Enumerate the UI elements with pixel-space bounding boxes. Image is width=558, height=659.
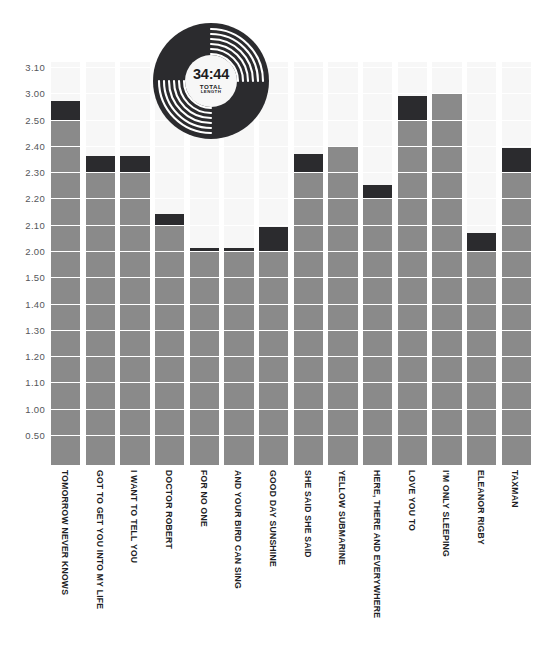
x-axis-tick-label: AND YOUR BIRD CAN SING: [233, 470, 243, 589]
bar-column[interactable]: [502, 62, 531, 465]
y-axis-tick-label: 1.40: [25, 298, 45, 309]
y-axis-tick-label: 1.30: [25, 324, 45, 335]
bar-column[interactable]: [398, 62, 427, 465]
gridline: [51, 198, 531, 199]
bar-seconds-cap: [86, 156, 115, 172]
bar-seconds-cap: [294, 154, 323, 172]
x-axis-labels: TOMORROW NEVER KNOWSGOT TO GET YOU INTO …: [51, 470, 531, 655]
x-axis-tick-label: FOR NO ONE: [199, 470, 209, 527]
y-axis-tick-label: 1.10: [25, 377, 45, 388]
y-axis-tick-label: 2.40: [25, 140, 45, 151]
bar[interactable]: [467, 233, 496, 465]
y-axis-tick-label: 1.00: [25, 403, 45, 414]
bar-column[interactable]: [120, 62, 149, 465]
x-axis-tick-label: TAXMAN: [510, 470, 520, 508]
bar-seconds-cap: [467, 233, 496, 251]
gridline: [51, 67, 531, 68]
bar-seconds-cap: [51, 101, 80, 119]
y-axis-tick-label: 2.10: [25, 219, 45, 230]
x-axis-tick-label: GOT TO GET YOU INTO MY LIFE: [95, 470, 105, 609]
bar[interactable]: [259, 227, 288, 465]
x-axis-tick-label: LOVE YOU TO: [407, 470, 417, 531]
x-axis-tick-label: SHE SAID SHE SAID: [303, 470, 313, 558]
bar-column[interactable]: [363, 62, 392, 465]
chart-page: 0.501.001.101.201.301.401.502.002.102.20…: [0, 0, 558, 659]
bar-seconds-cap: [259, 227, 288, 251]
x-axis-tick-label: HERE, THERE AND EVERYWHERE: [372, 470, 382, 618]
gridline: [51, 304, 531, 305]
x-axis-tick-label: I'M ONLY SLEEPING: [441, 470, 451, 557]
bar-column[interactable]: [328, 62, 357, 465]
gridline: [51, 435, 531, 436]
gridline: [51, 409, 531, 410]
bar-seconds-cap: [363, 185, 392, 198]
gridline: [51, 251, 531, 252]
bar-column[interactable]: [294, 62, 323, 465]
bar-column[interactable]: [467, 62, 496, 465]
y-axis-tick-label: 0.50: [25, 430, 45, 441]
y-axis-tick-label: 3.00: [25, 88, 45, 99]
bar[interactable]: [86, 156, 115, 465]
bars-group: [51, 62, 531, 465]
y-axis-tick-label: 2.20: [25, 193, 45, 204]
gridline: [51, 172, 531, 173]
gridline: [51, 356, 531, 357]
gridline: [51, 120, 531, 121]
y-axis-labels: 0.501.001.101.201.301.401.502.002.102.20…: [0, 60, 45, 465]
y-axis-tick-label: 2.30: [25, 167, 45, 178]
x-axis-tick-label: ELEANOR RIGBY: [476, 470, 486, 545]
bar-column[interactable]: [432, 62, 461, 465]
bar-column[interactable]: [86, 62, 115, 465]
gridline: [51, 382, 531, 383]
bar[interactable]: [502, 148, 531, 465]
gridline: [51, 225, 531, 226]
bar-seconds-cap: [155, 214, 184, 225]
record-center-label: 34:44 TOTAL LENGTH: [185, 55, 237, 107]
gridline: [51, 277, 531, 278]
gridline: [51, 93, 531, 94]
y-axis-tick-label: 1.50: [25, 272, 45, 283]
bar-seconds-cap: [398, 96, 427, 120]
y-axis-tick-label: 2.00: [25, 246, 45, 257]
bar[interactable]: [328, 146, 357, 465]
y-axis-tick-label: 1.20: [25, 351, 45, 362]
gridline: [51, 146, 531, 147]
x-axis-tick-label: TOMORROW NEVER KNOWS: [60, 470, 70, 595]
record-total-time: 34:44: [193, 67, 229, 82]
bar[interactable]: [120, 156, 149, 465]
x-axis-tick-label: I WANT TO TELL YOU: [129, 470, 139, 563]
bar-seconds-cap: [502, 148, 531, 172]
y-axis-tick-label: 2.50: [25, 114, 45, 125]
bar[interactable]: [363, 185, 392, 465]
gridline: [51, 330, 531, 331]
bar-column[interactable]: [51, 62, 80, 465]
bar[interactable]: [51, 101, 80, 465]
x-axis-tick-label: DOCTOR ROBERT: [164, 470, 174, 549]
bar[interactable]: [294, 154, 323, 465]
y-axis-tick-label: 3.10: [25, 62, 45, 73]
x-axis-tick-label: GOOD DAY SUNSHINE: [268, 470, 278, 567]
record-caption-length: LENGTH: [201, 90, 221, 94]
x-axis-tick-label: YELLOW SUBMARINE: [337, 470, 347, 565]
vinyl-record-icon: 34:44 TOTAL LENGTH: [152, 22, 270, 140]
bar-seconds-cap: [120, 156, 149, 172]
